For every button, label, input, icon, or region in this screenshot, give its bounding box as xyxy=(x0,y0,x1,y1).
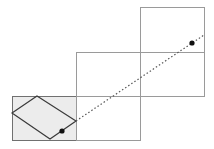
end-point-dot-icon xyxy=(189,40,194,45)
grid-cell-top-right xyxy=(141,8,205,53)
start-point-dot-icon xyxy=(59,128,64,133)
grid-cell-middle-right xyxy=(141,53,205,97)
grid-cell-middle-middle xyxy=(77,53,141,97)
grid-cells xyxy=(12,8,205,141)
geometry-diagram xyxy=(0,0,214,149)
diagram-canvas xyxy=(0,0,214,149)
shaded-cell-fill xyxy=(12,96,76,140)
grid-cell-bottom-middle xyxy=(77,97,141,141)
